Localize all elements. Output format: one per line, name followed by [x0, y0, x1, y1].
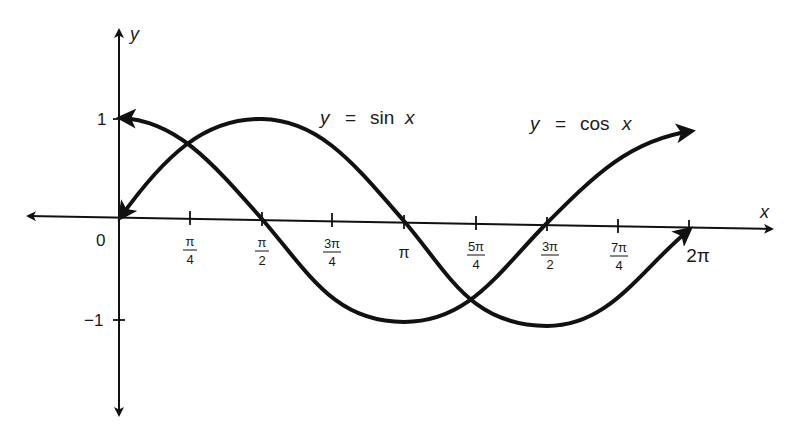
x-tick-label-pi: π	[398, 244, 409, 261]
svg-text:3π: 3π	[542, 239, 558, 254]
x-tick-label-3pi-over-2: 3π 2	[541, 239, 559, 272]
svg-text:4: 4	[615, 258, 622, 273]
y-tick-label-1: 1	[97, 110, 106, 129]
y-tick-label-neg1: −1	[84, 311, 103, 330]
svg-text:sin: sin	[370, 107, 394, 128]
svg-text:2: 2	[546, 257, 553, 272]
svg-text:4: 4	[472, 257, 479, 272]
y-axis-label: y	[128, 24, 140, 44]
svg-text:y: y	[528, 113, 541, 134]
sine-curve	[120, 119, 547, 326]
svg-text:=: =	[555, 113, 566, 134]
trig-graph: y x 0 1 −1 π 4 π 2 3π 4 π 5π 4 3π 2 7π 4…	[0, 0, 789, 430]
svg-text:=: =	[345, 107, 356, 128]
origin-label: 0	[96, 231, 105, 250]
x-tick-label-3pi-over-4: 3π 4	[323, 236, 341, 269]
x-tick-label-2pi: 2π	[686, 245, 710, 266]
x-tick-label-pi-over-4: π 4	[183, 234, 197, 267]
svg-text:x: x	[621, 113, 633, 134]
svg-text:π: π	[186, 234, 195, 249]
x-tick-label-5pi-over-4: 5π 4	[467, 239, 485, 272]
svg-text:4: 4	[186, 252, 193, 267]
svg-text:7π: 7π	[611, 240, 627, 255]
svg-text:5π: 5π	[468, 239, 484, 254]
svg-text:4: 4	[328, 254, 335, 269]
cosine-annotation: y = cos x	[528, 113, 633, 134]
sine-annotation: y = sin x	[318, 107, 416, 128]
svg-text:3π: 3π	[324, 236, 340, 251]
x-axis-label: x	[759, 202, 770, 222]
x-tick-label-pi-over-2: π 2	[255, 235, 269, 268]
svg-text:y: y	[318, 107, 331, 128]
svg-text:2: 2	[258, 253, 265, 268]
svg-text:cos: cos	[580, 113, 610, 134]
svg-text:x: x	[404, 107, 416, 128]
svg-text:π: π	[258, 235, 267, 250]
x-tick-label-7pi-over-4: 7π 4	[610, 240, 628, 273]
